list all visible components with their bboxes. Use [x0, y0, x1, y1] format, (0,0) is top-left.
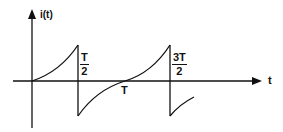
x-axis-label: t	[268, 75, 272, 86]
x-axis-arrow-icon	[252, 77, 262, 85]
waveform-segment-1	[32, 45, 78, 81]
y-axis-label: i(t)	[40, 10, 53, 20]
tick-half-period-numerator: T	[80, 52, 89, 65]
tick-label-three-half-period: 3T 2	[172, 52, 187, 77]
y-axis-arrow-icon	[28, 9, 36, 19]
waveform-diagram: i(t) t T 2 T 3T 2	[0, 0, 283, 132]
tick-label-period: T	[121, 85, 128, 96]
waveform-segment-3	[170, 97, 194, 116]
tick-three-half-period-numerator: 3T	[172, 52, 187, 65]
tick-label-half-period: T 2	[80, 52, 89, 77]
tick-half-period-denominator: 2	[80, 65, 89, 77]
tick-three-half-period-denominator: 2	[172, 65, 187, 77]
